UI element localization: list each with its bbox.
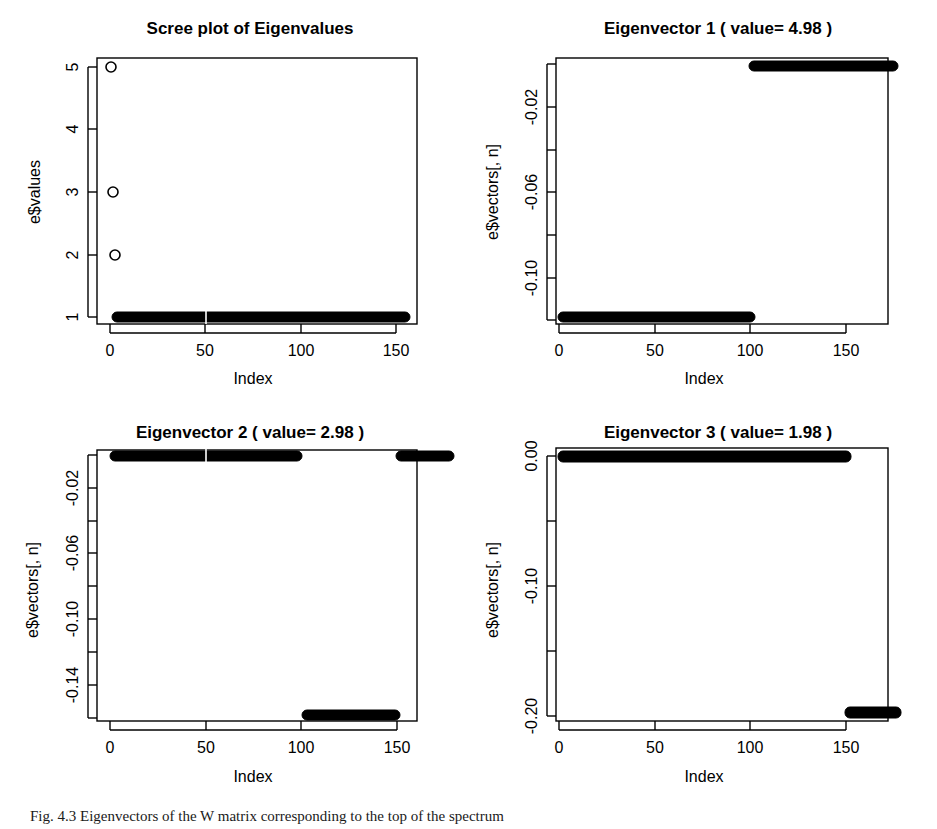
panel-title-eigenvector-3: Eigenvector 3 ( value= 1.98 ) xyxy=(604,423,832,442)
x-tick-label: 0 xyxy=(555,739,564,756)
data-band xyxy=(112,312,410,322)
x-axis-title-ev3: Index xyxy=(684,768,723,785)
data-series-eigenvector-3 xyxy=(558,451,901,718)
x-tick-label: 100 xyxy=(737,342,764,359)
chart-panel-eigenvector-3: Eigenvector 3 ( value= 1.98 ) 0.00 -0.10… xyxy=(468,400,936,800)
x-tick-label: 50 xyxy=(646,739,664,756)
y-tick-label: -0.20 xyxy=(523,698,540,735)
plot-area-scree xyxy=(97,58,417,324)
y-axis-title-scree: e$values xyxy=(26,160,43,224)
y-tick-label: -0.06 xyxy=(64,535,81,572)
y-tick-label: 4 xyxy=(64,124,81,133)
chart-panel-eigenvector-2: Eigenvector 2 ( value= 2.98 ) -0.02 -0.0… xyxy=(0,400,468,800)
data-point xyxy=(108,187,118,197)
x-tick-label: 150 xyxy=(833,739,860,756)
plot-area-eigenvector-1 xyxy=(556,58,888,324)
x-tick-label: 0 xyxy=(106,342,115,359)
x-tick-label: 50 xyxy=(196,342,214,359)
y-tick-label: 5 xyxy=(64,62,81,71)
data-band xyxy=(749,61,898,71)
plot-area-eigenvector-3 xyxy=(556,448,888,721)
y-tick-label: -0.10 xyxy=(64,601,81,638)
data-series-eigenvector-2 xyxy=(110,449,454,720)
x-tick-label: 0 xyxy=(555,342,564,359)
chart-panel-scree: Scree plot of Eigenvalues 5 4 3 2 1 e$va… xyxy=(0,0,468,400)
y-tick-label: 0.00 xyxy=(523,440,540,471)
data-band xyxy=(558,312,755,322)
x-ticks-ev2 xyxy=(110,721,397,730)
x-ticks-ev1 xyxy=(559,324,846,333)
y-tick-label: -0.14 xyxy=(64,667,81,704)
data-series-scree xyxy=(106,62,410,324)
data-point xyxy=(110,250,120,260)
figure-caption: Fig. 4.3 Eigenvectors of the W matrix co… xyxy=(0,808,937,829)
y-tick-label: -0.06 xyxy=(523,174,540,211)
y-ticks-ev3 xyxy=(547,456,556,716)
x-tick-label: 50 xyxy=(646,342,664,359)
y-axis-title-ev1: e$vectors[, n] xyxy=(484,144,501,240)
chart-panel-eigenvector-1: Eigenvector 1 ( value= 4.98 ) -0.02 -0.0… xyxy=(468,0,936,400)
data-band xyxy=(302,710,400,720)
data-series-eigenvector-1 xyxy=(558,61,898,322)
x-ticks-ev3 xyxy=(559,721,846,730)
y-tick-label: -0.10 xyxy=(523,568,540,605)
data-band xyxy=(845,707,901,718)
x-tick-label: 150 xyxy=(384,739,411,756)
data-point xyxy=(106,62,116,72)
x-tick-label: 150 xyxy=(833,342,860,359)
data-band xyxy=(396,451,454,461)
panel-title-eigenvector-1: Eigenvector 1 ( value= 4.98 ) xyxy=(604,19,832,38)
panel-title-eigenvector-2: Eigenvector 2 ( value= 2.98 ) xyxy=(136,423,364,442)
y-ticks-scree xyxy=(88,67,97,317)
y-tick-label: -0.02 xyxy=(64,470,81,507)
x-tick-label: 0 xyxy=(106,739,115,756)
x-tick-label: 150 xyxy=(383,342,410,359)
y-axis-title-ev3: e$vectors[, n] xyxy=(484,542,501,638)
x-axis-title-scree: Index xyxy=(233,370,272,387)
x-axis-title-ev1: Index xyxy=(684,370,723,387)
x-tick-label: 100 xyxy=(288,342,315,359)
x-axis-title-ev2: Index xyxy=(233,768,272,785)
data-band xyxy=(558,451,851,462)
figure-panel-grid: Scree plot of Eigenvalues 5 4 3 2 1 e$va… xyxy=(0,0,937,829)
x-tick-label: 100 xyxy=(737,739,764,756)
x-tick-label: 50 xyxy=(197,739,215,756)
y-tick-label: -0.10 xyxy=(523,260,540,297)
y-tick-label: -0.02 xyxy=(523,89,540,126)
panel-title-scree: Scree plot of Eigenvalues xyxy=(147,19,354,38)
x-tick-label: 100 xyxy=(288,739,315,756)
y-ticks-ev1 xyxy=(547,64,556,320)
y-tick-label: 1 xyxy=(64,312,81,321)
plot-area-eigenvector-2 xyxy=(97,450,417,721)
y-axis-title-ev2: e$vectors[, n] xyxy=(24,542,41,638)
x-ticks-scree xyxy=(110,324,396,333)
y-tick-label: 2 xyxy=(64,250,81,259)
y-ticks-ev2 xyxy=(88,455,97,718)
y-tick-label: 3 xyxy=(64,187,81,196)
